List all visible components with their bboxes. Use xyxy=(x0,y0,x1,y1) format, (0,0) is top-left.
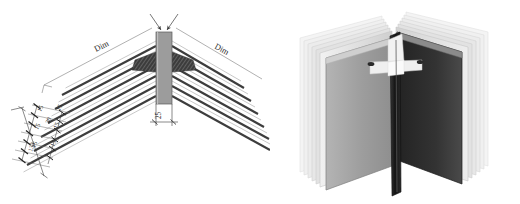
dimension-ladder: 15 15 15 15 15 15 30 133 xyxy=(11,103,70,178)
center-width-label: 25 xyxy=(155,111,163,119)
drawing-svg: Dim Dim 25 xyxy=(0,0,270,204)
dimensioned-line-drawing: Dim Dim 25 xyxy=(0,0,270,204)
spacing-label-2: 15 xyxy=(32,122,41,130)
right-wedge xyxy=(172,52,196,72)
center-bar xyxy=(156,32,172,104)
right-notch-mark xyxy=(417,60,423,64)
figure-root: Dim Dim 25 xyxy=(0,0,520,204)
left-notch-mark xyxy=(368,62,375,66)
spacing-label-1: 15 xyxy=(35,104,44,112)
dim-label-right: Dim xyxy=(213,42,231,57)
top-width-arrows xyxy=(150,14,178,30)
middle-gap-label: 30 xyxy=(43,116,52,124)
left-wedge xyxy=(132,52,156,72)
render-svg xyxy=(270,0,520,204)
shaded-3d-render xyxy=(270,0,520,204)
